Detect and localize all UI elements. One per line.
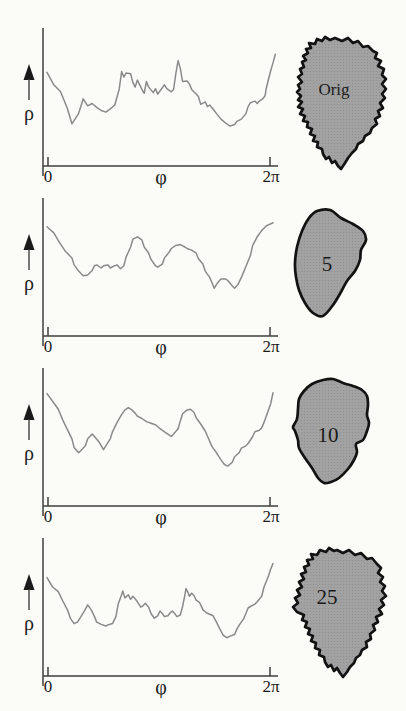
y-axis-label-rho: ρ	[24, 102, 34, 125]
signature-curve-10	[47, 393, 273, 466]
x-tick-label-zero: 0	[44, 677, 53, 696]
shape-label-orig: Orig	[318, 80, 350, 99]
signature-curve-25	[47, 564, 273, 638]
rho-phi-plot-5: ρ 0 φ 2π	[0, 190, 285, 358]
x-axis-label-phi: φ	[155, 676, 167, 698]
x-tick-label-zero: 0	[44, 337, 53, 356]
up-arrow-icon	[24, 64, 35, 80]
shape-label-5: 5	[322, 252, 333, 276]
rho-phi-plot-10: ρ 0 φ 2π	[0, 360, 285, 528]
fourier-signature-figure: ρ 0 φ 2π Orig ρ 0 φ 2π 5	[0, 0, 406, 698]
row-25: ρ 0 φ 2π 25	[0, 530, 406, 698]
shape-outline-25	[293, 548, 386, 677]
row-orig: ρ 0 φ 2π Orig	[0, 20, 406, 188]
shape-label-10: 10	[318, 423, 339, 447]
up-arrow-icon	[24, 574, 35, 590]
x-tick-label-2pi: 2π	[262, 337, 280, 356]
x-axis-label-phi: φ	[155, 166, 167, 188]
shape-5: 5	[285, 195, 406, 347]
shape-outline-orig	[297, 37, 386, 169]
x-tick-label-2pi: 2π	[262, 167, 280, 186]
signature-curve-orig	[47, 54, 275, 126]
y-axis-label-rho: ρ	[24, 442, 34, 465]
y-axis-label-rho: ρ	[24, 612, 34, 635]
shape-label-25: 25	[317, 585, 338, 609]
x-tick-label-zero: 0	[44, 167, 53, 186]
y-axis-label-rho: ρ	[24, 272, 34, 295]
signature-curve-5	[47, 223, 273, 288]
up-arrow-icon	[24, 404, 35, 420]
x-axis-label-phi: φ	[155, 506, 167, 528]
shape-25: 25	[285, 535, 406, 687]
x-tick-label-2pi: 2π	[262, 677, 280, 696]
up-arrow-icon	[24, 234, 35, 250]
row-10: ρ 0 φ 2π 10	[0, 360, 406, 528]
x-tick-label-2pi: 2π	[262, 507, 280, 526]
row-5: ρ 0 φ 2π 5	[0, 190, 406, 358]
shape-orig: Orig	[285, 25, 406, 177]
x-axis-label-phi: φ	[155, 336, 167, 358]
shape-10: 10	[285, 365, 406, 517]
x-tick-label-zero: 0	[44, 507, 53, 526]
rho-phi-plot-orig: ρ 0 φ 2π	[0, 20, 285, 188]
rho-phi-plot-25: ρ 0 φ 2π	[0, 530, 285, 698]
